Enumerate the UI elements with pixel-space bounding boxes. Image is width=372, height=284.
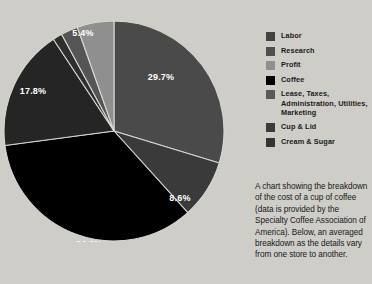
- legend-label: Labor: [281, 31, 302, 41]
- legend-item[interactable]: Cream & Sugar: [266, 137, 370, 147]
- legend-swatch: [266, 138, 275, 147]
- legend-swatch: [266, 32, 275, 41]
- legend-label: Research: [281, 46, 315, 56]
- legend-item[interactable]: Labor: [266, 31, 370, 41]
- pie-slice-label: 34.6%: [76, 239, 103, 242]
- pie-slice-group: [4, 21, 224, 241]
- pie-slice-label: 29.7%: [148, 72, 175, 82]
- legend-item[interactable]: Lease, Taxes, Administration, Utilities,…: [266, 89, 370, 118]
- legend-swatch: [266, 61, 275, 70]
- pie-chart-figure: 29.7%8.6%34.6%17.8%5.4% LaborResearchPro…: [0, 0, 372, 284]
- pie-chart-svg: 29.7%8.6%34.6%17.8%5.4%: [3, 20, 225, 242]
- legend-label: Lease, Taxes, Administration, Utilities,…: [281, 89, 370, 118]
- legend-swatch: [266, 123, 275, 132]
- pie-slice-label: 17.8%: [20, 86, 47, 96]
- chart-legend: LaborResearchProfitCoffeeLease, Taxes, A…: [266, 31, 370, 151]
- legend-item[interactable]: Coffee: [266, 75, 370, 85]
- legend-swatch: [266, 47, 275, 56]
- chart-caption: A chart showing the breakdown of the cos…: [255, 181, 369, 261]
- legend-swatch: [266, 76, 275, 85]
- legend-item[interactable]: Cup & Lid: [266, 122, 370, 132]
- legend-label: Cup & Lid: [281, 122, 316, 132]
- legend-item[interactable]: Research: [266, 46, 370, 56]
- pie-chart: 29.7%8.6%34.6%17.8%5.4%: [3, 20, 225, 242]
- pie-slice-label: 8.6%: [169, 193, 190, 203]
- legend-label: Coffee: [281, 75, 304, 85]
- pie-slice-label: 5.4%: [72, 28, 93, 38]
- legend-swatch: [266, 90, 275, 99]
- legend-label: Profit: [281, 60, 301, 70]
- legend-item[interactable]: Profit: [266, 60, 370, 70]
- legend-label: Cream & Sugar: [281, 137, 335, 147]
